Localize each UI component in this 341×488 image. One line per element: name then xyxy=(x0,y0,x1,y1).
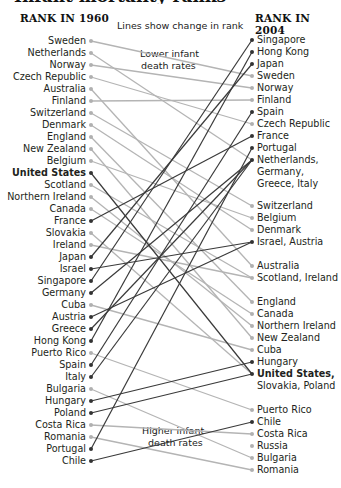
country-label-2004: Japan xyxy=(257,58,284,70)
country-label-1960: France xyxy=(54,215,86,227)
country-label-2004: Portugal xyxy=(257,142,297,154)
country-label-2004: Russia xyxy=(257,440,288,452)
country-label-2004: Northern Ireland xyxy=(257,320,336,332)
country-label-1960: Austria xyxy=(52,311,86,323)
country-label-1960: Germany xyxy=(42,287,86,299)
country-label-1960: Singapore xyxy=(38,275,86,287)
country-label-1960: Sweden xyxy=(48,35,86,47)
left-point-dot xyxy=(89,459,93,463)
left-point-dot xyxy=(89,231,93,235)
country-label-1960: Czech Republic xyxy=(13,71,86,83)
country-label-2004: Greece, Italy xyxy=(257,178,318,190)
country-label-2004: New Zealand xyxy=(257,332,320,344)
left-point-dot xyxy=(89,51,93,55)
country-label-1960: Hong Kong xyxy=(34,335,86,347)
country-label-1960: Switzerland xyxy=(30,107,86,119)
country-label-2004: Singapore xyxy=(257,34,305,46)
connector-line xyxy=(91,161,252,218)
connector-line xyxy=(91,242,252,269)
right-point-dot xyxy=(250,372,254,376)
country-label-2004: Norway xyxy=(257,82,293,94)
left-point-dot xyxy=(89,171,93,175)
left-point-dot xyxy=(89,255,93,259)
left-point-dot xyxy=(89,75,93,79)
right-point-dot xyxy=(250,228,254,232)
left-point-dot xyxy=(89,63,93,67)
right-point-dot xyxy=(250,134,254,138)
connector-line xyxy=(91,362,252,401)
right-point-dot xyxy=(250,122,254,126)
country-label-2004: Denmark xyxy=(257,224,301,236)
left-point-dot xyxy=(89,39,93,43)
country-label-1960: Romania xyxy=(44,431,86,443)
right-point-dot xyxy=(250,98,254,102)
country-label-1960: Northern Ireland xyxy=(7,191,86,203)
country-label-2004: France xyxy=(257,130,289,142)
left-point-dot xyxy=(89,123,93,127)
left-point-dot xyxy=(89,363,93,367)
country-label-1960: England xyxy=(47,131,86,143)
country-label-1960: Greece xyxy=(52,323,86,335)
country-label-1960: Belgium xyxy=(47,155,86,167)
left-point-dot xyxy=(89,183,93,187)
country-label-2004: Canada xyxy=(257,308,294,320)
country-label-1960: New Zealand xyxy=(23,143,86,155)
country-label-2004: Czech Republic xyxy=(257,118,330,130)
left-point-dot xyxy=(89,291,93,295)
left-point-dot xyxy=(89,375,93,379)
country-label-2004: Belgium xyxy=(257,212,296,224)
country-label-2004: Romania xyxy=(257,464,299,476)
country-label-1960: Canada xyxy=(49,203,86,215)
country-label-2004: Australia xyxy=(257,260,299,272)
connector-line xyxy=(91,374,252,413)
connector-line xyxy=(91,136,252,221)
left-point-dot xyxy=(89,111,93,115)
left-point-dot xyxy=(89,195,93,199)
right-point-dot xyxy=(250,74,254,78)
left-point-dot xyxy=(89,267,93,271)
left-point-dot xyxy=(89,399,93,403)
country-label-2004: England xyxy=(257,296,296,308)
right-point-dot xyxy=(250,216,254,220)
country-label-1960: Bulgaria xyxy=(46,383,86,395)
country-label-1960: Costa Rica xyxy=(35,419,86,431)
right-point-dot xyxy=(250,240,254,244)
country-label-1960: Finland xyxy=(52,95,86,107)
right-point-dot xyxy=(250,62,254,66)
right-point-dot xyxy=(250,86,254,90)
country-label-2004: Finland xyxy=(257,94,291,106)
country-label-2004: Netherlands, xyxy=(257,154,319,166)
country-label-1960: Puerto Rico xyxy=(31,347,86,359)
right-point-dot xyxy=(250,336,254,340)
country-label-2004: Hungary xyxy=(257,356,298,368)
country-label-1960: Slovakia xyxy=(46,227,86,239)
country-label-2004: Puerto Rico xyxy=(257,404,312,416)
left-point-dot xyxy=(89,207,93,211)
country-label-2004: Switzerland xyxy=(257,200,313,212)
left-point-dot xyxy=(89,147,93,151)
right-point-dot xyxy=(250,38,254,42)
connector-line xyxy=(91,425,252,434)
country-label-1960: Netherlands xyxy=(28,47,86,59)
right-point-dot xyxy=(250,420,254,424)
right-point-dot xyxy=(250,204,254,208)
left-point-dot xyxy=(89,387,93,391)
left-point-dot xyxy=(89,243,93,247)
country-label-2004: Scotland, Ireland xyxy=(257,272,338,284)
country-label-1960: Cuba xyxy=(61,299,86,311)
right-point-dot xyxy=(250,312,254,316)
country-label-2004: Slovakia, Poland xyxy=(257,380,335,392)
country-label-2004: Costa Rica xyxy=(257,428,308,440)
country-label-2004: United States, xyxy=(257,368,335,380)
country-label-2004: Cuba xyxy=(257,344,282,356)
left-point-dot xyxy=(89,351,93,355)
country-label-1960: Scotland xyxy=(44,179,86,191)
right-point-dot xyxy=(250,408,254,412)
right-point-dot xyxy=(250,110,254,114)
left-point-dot xyxy=(89,99,93,103)
left-point-dot xyxy=(89,279,93,283)
right-point-dot xyxy=(250,456,254,460)
connector-line xyxy=(91,242,252,317)
country-label-1960: Poland xyxy=(54,407,86,419)
left-point-dot xyxy=(89,87,93,91)
